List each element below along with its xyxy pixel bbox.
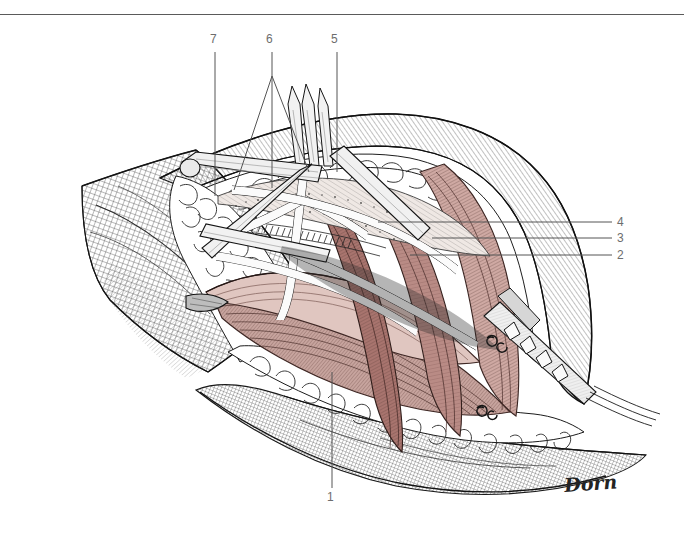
- label-4: 4: [617, 216, 624, 228]
- anatomical-figure: [0, 0, 684, 539]
- label-2: 2: [617, 249, 624, 261]
- label-6: 6: [266, 33, 273, 45]
- label-5: 5: [331, 33, 338, 45]
- anatomy-svg: [0, 0, 684, 539]
- label-7: 7: [210, 33, 217, 45]
- illustration-page: 7 6 5 4 3 2 1 Dorn: [0, 0, 684, 539]
- label-3: 3: [617, 232, 624, 244]
- artist-signature: Dorn: [563, 470, 617, 496]
- retractor-prongs-top: [288, 84, 333, 166]
- label-1: 1: [327, 491, 334, 503]
